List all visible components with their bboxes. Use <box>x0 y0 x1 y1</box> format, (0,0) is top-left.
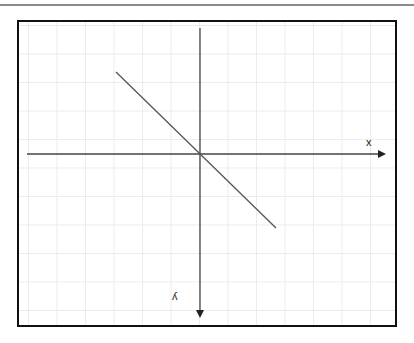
y-axis-label: y <box>172 292 178 303</box>
x-axis-label: x <box>366 137 372 148</box>
coordinate-plot <box>0 0 414 343</box>
plotted-line <box>116 72 276 228</box>
